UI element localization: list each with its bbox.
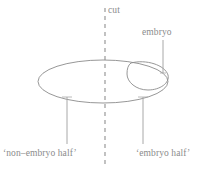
non-embryo-half-label: ‘non–embryo half’: [3, 148, 77, 159]
embryo-half-label: ‘embryo half’: [136, 148, 190, 159]
disc-ellipse: [38, 60, 168, 103]
embryo-label: embryo: [142, 27, 172, 38]
diagram-canvas: [0, 0, 209, 170]
cut-label: cut: [108, 5, 120, 16]
embryo-bisection-figure: cut embryo ‘non–embryo half’ ‘embryo hal…: [0, 0, 209, 170]
